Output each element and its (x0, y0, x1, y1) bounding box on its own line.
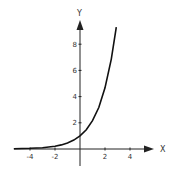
x-tick-label: 2 (103, 153, 107, 161)
x-axis-arrow-icon (144, 146, 154, 153)
y-tick-label: 6 (73, 67, 78, 75)
y-tick-label: 4 (73, 93, 78, 101)
x-tick-label: -2 (52, 153, 59, 161)
y-axis-label: Y (76, 9, 82, 18)
y-tick-label: 8 (73, 41, 77, 49)
y-axis-arrow-icon (77, 20, 84, 30)
x-axis-label: X (160, 145, 166, 154)
y-axis: Y (76, 9, 84, 166)
y-tick-label: 2 (73, 119, 77, 127)
data-curve (14, 27, 117, 149)
x-tick-label: -4 (27, 153, 35, 161)
exponential-chart: X Y -4-2242468 (0, 0, 174, 176)
x-axis: X (14, 145, 166, 154)
x-tick-label: 4 (128, 153, 133, 161)
